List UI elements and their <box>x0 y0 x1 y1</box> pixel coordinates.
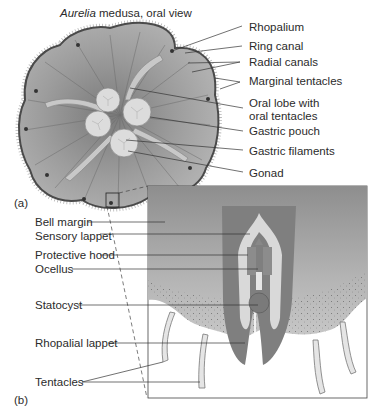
label-ring-canal: Ring canal <box>249 40 303 53</box>
panel-b-label: (b) <box>14 394 28 407</box>
label-statocyst: Statocyst <box>35 299 82 312</box>
label-gastric-pouch: Gastric pouch <box>249 125 320 138</box>
label-radial-canals: Radial canals <box>249 56 318 69</box>
label-protective-hood: Protective hood <box>35 249 115 262</box>
label-oral-tentacles: oral tentacles <box>249 110 317 123</box>
label-rhopalium: Rhopalium <box>249 21 304 34</box>
label-sensory-lappet: Sensory lappet <box>35 230 112 243</box>
label-gastric-filaments: Gastric filaments <box>249 145 335 158</box>
diagram-canvas <box>0 0 378 412</box>
label-tentacles: Tentacles <box>35 376 84 389</box>
panel-a-label: (a) <box>14 197 28 210</box>
label-ocellus: Ocellus <box>35 263 73 276</box>
label-gonad: Gonad <box>249 167 284 180</box>
label-oral-lobe: Oral lobe with <box>249 97 319 110</box>
label-marginal-tentacles: Marginal tentacles <box>249 75 342 88</box>
label-rhopalial-lappet: Rhopalial lappet <box>35 337 117 350</box>
label-bell-margin: Bell margin <box>35 216 93 229</box>
medusa-bell <box>19 23 218 208</box>
rhopalium-inset <box>148 186 367 398</box>
